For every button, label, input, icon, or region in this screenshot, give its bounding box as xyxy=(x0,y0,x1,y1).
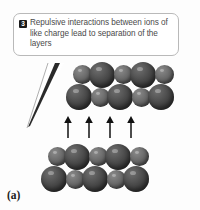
sphere-large xyxy=(41,166,67,192)
sphere-highlight xyxy=(160,69,164,72)
sphere-highlight xyxy=(96,92,100,95)
sphere-highlight xyxy=(114,89,120,93)
sphere-highlight xyxy=(53,151,57,154)
callout-step-badge: 3 xyxy=(19,20,27,28)
sphere-highlight xyxy=(137,92,141,95)
sphere-highlight xyxy=(73,89,79,93)
sphere-large xyxy=(89,62,115,88)
sphere-large xyxy=(105,144,131,170)
sphere-highlight xyxy=(155,89,161,93)
sphere-highlight xyxy=(119,69,123,72)
panel-label: (a) xyxy=(7,189,20,201)
sphere-highlight xyxy=(48,171,54,175)
lower-layer xyxy=(48,144,168,200)
sphere-highlight xyxy=(135,151,139,154)
sphere-highlight xyxy=(94,151,98,154)
sphere-large xyxy=(148,84,174,110)
sphere-highlight xyxy=(130,171,136,175)
upper-layer xyxy=(73,62,193,118)
sphere-small xyxy=(130,147,149,166)
callout-text: Repulsive interactions between ions of l… xyxy=(30,18,173,50)
sphere-highlight xyxy=(137,67,143,71)
sphere-large xyxy=(66,84,92,110)
sphere-highlight xyxy=(112,174,116,177)
callout-box: 3 Repulsive interactions between ions of… xyxy=(13,13,179,56)
sphere-highlight xyxy=(71,149,77,153)
sphere-highlight xyxy=(96,67,102,71)
sphere-highlight xyxy=(89,171,95,175)
sphere-large xyxy=(123,166,149,192)
sphere-large xyxy=(64,144,90,170)
sphere-small xyxy=(155,65,174,84)
figure-panel: 3 Repulsive interactions between ions of… xyxy=(0,0,200,210)
sphere-highlight xyxy=(78,69,82,72)
sphere-large xyxy=(107,84,133,110)
sphere-large xyxy=(130,62,156,88)
sphere-large xyxy=(82,166,108,192)
sphere-highlight xyxy=(112,149,118,153)
sphere-highlight xyxy=(71,174,75,177)
arrow-head-icon xyxy=(64,116,72,123)
